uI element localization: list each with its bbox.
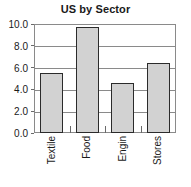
y-tick-label: 6.0 bbox=[14, 62, 28, 73]
x-tick-label: Engin bbox=[118, 136, 128, 162]
bar-series bbox=[34, 24, 176, 133]
y-tick-label: 4.0 bbox=[14, 84, 28, 95]
x-tick-label: Textile bbox=[47, 136, 57, 164]
y-axis: 0.02.04.06.08.010.0 bbox=[0, 24, 31, 133]
bar-textile bbox=[40, 73, 63, 133]
x-tick-label-slot: Engin bbox=[105, 133, 141, 187]
x-tick-label-slot: Textile bbox=[34, 133, 70, 187]
x-tick-label-slot: Stores bbox=[141, 133, 177, 187]
y-tick-label: 0.0 bbox=[14, 128, 28, 139]
chart-title: US by Sector bbox=[0, 3, 191, 15]
y-tick-label: 8.0 bbox=[14, 40, 28, 51]
x-tick-label: Food bbox=[82, 136, 92, 159]
x-tick-mark bbox=[141, 126, 142, 133]
x-axis: TextileFoodEnginStores bbox=[34, 133, 176, 187]
y-tick-label: 10.0 bbox=[9, 19, 28, 30]
x-tick-label-slot: Food bbox=[70, 133, 106, 187]
bar-food bbox=[76, 27, 99, 133]
x-tick-mark bbox=[70, 126, 71, 133]
x-tick-label: Stores bbox=[153, 136, 163, 165]
y-tick-label: 2.0 bbox=[14, 106, 28, 117]
bar-chart: US by Sector 0.02.04.06.08.010.0 Textile… bbox=[0, 0, 191, 187]
x-tick-mark bbox=[105, 126, 106, 133]
bar-stores bbox=[147, 63, 170, 133]
